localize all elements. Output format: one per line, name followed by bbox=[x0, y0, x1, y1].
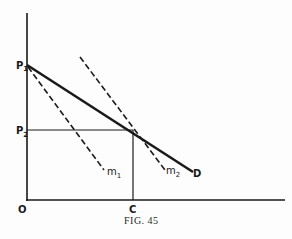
label-d: D bbox=[193, 168, 201, 179]
label-m1: m1 bbox=[107, 166, 121, 180]
m1-dashed-line bbox=[28, 67, 104, 170]
m2-dashed-line bbox=[80, 57, 165, 170]
label-m2: m2 bbox=[166, 165, 180, 179]
figure-caption: FIG. 45 bbox=[124, 215, 159, 226]
label-origin: O bbox=[18, 204, 27, 215]
figure-45: P1 P2 m1 m2 D O C FIG. 45 bbox=[0, 0, 292, 239]
label-c: C bbox=[129, 204, 136, 215]
demand-line-d bbox=[27, 65, 193, 172]
diagram-canvas: P1 P2 m1 m2 D O C FIG. 45 bbox=[0, 0, 292, 239]
